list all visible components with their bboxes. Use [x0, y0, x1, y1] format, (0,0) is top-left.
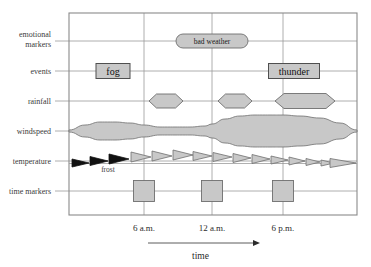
row-label-windspeed: windspeed: [17, 127, 51, 136]
windspeed-ribbon[interactable]: [69, 115, 357, 147]
timeline-diagram: emotionalmarkerseventsrainfallwindspeedt…: [0, 0, 371, 267]
event-label-1: thunder: [279, 66, 310, 77]
row-label-emotional_markers: emotional: [19, 30, 52, 39]
x-tick-label-2: 6 p.m.: [272, 223, 295, 233]
row-label-temperature: temperature: [13, 157, 52, 166]
temperature-arrow-3[interactable]: [131, 152, 151, 162]
emotional-marker-label-0: bad weather: [194, 37, 231, 46]
temperature-arrow-10[interactable]: [271, 156, 288, 164]
row-label-rainfall: rainfall: [28, 97, 52, 106]
time-marker-square-0[interactable]: [134, 181, 155, 202]
rainfall-hexagon-0[interactable]: [149, 94, 183, 108]
diagram-canvas: emotionalmarkerseventsrainfallwindspeedt…: [0, 0, 371, 267]
temperature-arrow-2[interactable]: [109, 154, 129, 164]
rainfall-row: [149, 94, 335, 109]
temperature-arrow-6[interactable]: [193, 152, 212, 161]
temperature-arrow-4[interactable]: [152, 151, 172, 161]
windspeed-row: [69, 115, 357, 147]
temperature-arrow-7[interactable]: [213, 153, 232, 162]
x-tick-label-0: 6 a.m.: [133, 223, 155, 233]
row-label-events: events: [31, 67, 51, 76]
temperature-arrow-0[interactable]: [72, 159, 89, 167]
temperature-note-frost: frost: [101, 165, 116, 174]
temperature-arrow-12[interactable]: [306, 159, 320, 166]
x-axis-title: time: [192, 251, 209, 261]
temperature-arrow-14[interactable]: [330, 159, 356, 168]
rainfall-hexagon-2[interactable]: [275, 94, 335, 109]
temperature-arrow-5[interactable]: [173, 150, 193, 160]
time-marker-square-1[interactable]: [202, 181, 223, 202]
emotional-markers-row: bad weather: [176, 34, 248, 48]
x-axis-tick-labels: 6 a.m.12 a.m.6 p.m.: [133, 223, 295, 233]
temperature-row: frost: [69, 150, 357, 174]
row-label-emotional_markers-line2: markers: [25, 40, 51, 49]
x-axis-title-group: time: [148, 240, 260, 261]
row-label-time_markers: time markers: [9, 187, 51, 196]
rainfall-hexagon-1[interactable]: [218, 94, 252, 108]
x-tick-label-1: 12 a.m.: [199, 223, 226, 233]
time-marker-square-2[interactable]: [273, 181, 294, 202]
time-arrow-head-icon: [253, 240, 260, 246]
temperature-arrow-9[interactable]: [252, 155, 270, 164]
event-label-0: fog: [106, 66, 119, 77]
row-labels: emotionalmarkerseventsrainfallwindspeedt…: [9, 30, 52, 196]
